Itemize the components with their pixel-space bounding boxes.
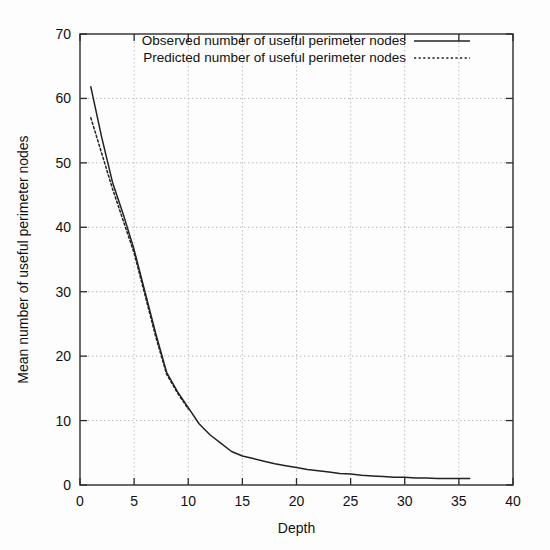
- x-tick-labels: 0510152025303540: [76, 493, 521, 509]
- y-tick-label: 30: [55, 284, 71, 300]
- ticks-layer: [80, 34, 513, 485]
- legend-label-predicted: Predicted number of useful perimeter nod…: [143, 50, 406, 65]
- x-tick-label: 10: [180, 493, 196, 509]
- x-tick-label: 0: [76, 493, 84, 509]
- series-layer: [91, 87, 470, 479]
- x-tick-label: 25: [343, 493, 359, 509]
- x-tick-label: 40: [505, 493, 521, 509]
- y-tick-label: 0: [63, 477, 71, 493]
- line-chart: 0510152025303540 010203040506070 Observe…: [0, 0, 550, 550]
- chart-figure: 0510152025303540 010203040506070 Observe…: [0, 0, 550, 550]
- y-tick-label: 60: [55, 90, 71, 106]
- legend-label-observed: Observed number of useful perimeter node…: [142, 33, 406, 48]
- x-tick-label: 5: [130, 493, 138, 509]
- y-tick-label: 70: [55, 26, 71, 42]
- y-tick-label: 50: [55, 155, 71, 171]
- series-line-predicted: [91, 118, 188, 409]
- series-line-observed: [91, 87, 470, 479]
- y-tick-labels: 010203040506070: [55, 26, 71, 493]
- x-axis-title: Depth: [278, 520, 315, 536]
- x-tick-label: 15: [235, 493, 251, 509]
- y-tick-label: 40: [55, 219, 71, 235]
- chart-legend: Observed number of useful perimeter node…: [142, 33, 470, 65]
- axes-layer: [80, 34, 513, 485]
- y-axis-title: Mean number of useful perimeter nodes: [15, 135, 31, 383]
- x-tick-label: 30: [397, 493, 413, 509]
- x-tick-label: 35: [451, 493, 467, 509]
- grid-layer: [80, 34, 513, 485]
- plot-frame: [80, 34, 513, 485]
- y-tick-label: 20: [55, 348, 71, 364]
- x-tick-label: 20: [289, 493, 305, 509]
- y-tick-label: 10: [55, 413, 71, 429]
